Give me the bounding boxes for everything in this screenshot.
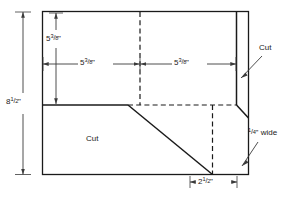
label-horizontal-right-segment: 53/8" bbox=[173, 58, 190, 67]
diagonal-cut-line bbox=[128, 105, 213, 175]
label-vertical-top-segment: 53/8" bbox=[45, 34, 62, 43]
dimension-vertical-top bbox=[49, 13, 63, 104]
label-strip-width: 1/4" wide bbox=[247, 128, 278, 137]
label-bottom-segment: 21/2" bbox=[197, 177, 214, 186]
leader-cut-right bbox=[241, 56, 262, 78]
panel-outline bbox=[43, 12, 249, 175]
dimension-overall-height bbox=[15, 12, 31, 175]
right-strip-diagonal bbox=[237, 105, 249, 118]
leader-strip-width bbox=[242, 142, 258, 166]
label-horizontal-left-segment: 53/8" bbox=[79, 58, 96, 67]
label-cut-right: Cut bbox=[258, 44, 272, 52]
label-cut-interior: Cut bbox=[85, 135, 99, 143]
diagram-canvas bbox=[0, 0, 301, 199]
cutting-diagram: 81/2" 53/8" 53/8" 53/8" 21/2" 1/4" wide … bbox=[0, 0, 301, 199]
label-overall-height: 81/2" bbox=[5, 97, 22, 106]
